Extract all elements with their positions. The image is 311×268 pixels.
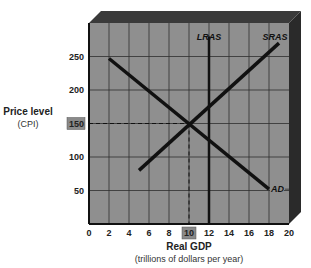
y-tick-label: 100 — [69, 152, 84, 162]
x-tick-label: 10 — [184, 228, 194, 238]
x-tick-label: 20 — [284, 228, 294, 238]
y-axis-subtitle: (CPI) — [18, 119, 39, 129]
y-tick-label: 50 — [74, 186, 84, 196]
aggregate-supply-demand-chart: LRASSRASAD501001502002500246810121416182… — [0, 0, 311, 268]
x-tick-label: 16 — [244, 228, 254, 238]
x-tick-label: 14 — [224, 228, 234, 238]
label-ad: AD — [270, 184, 284, 194]
box-top-face — [89, 11, 301, 23]
y-tick-label: 150 — [69, 119, 84, 129]
x-tick-label: 6 — [146, 228, 151, 238]
x-tick-label: 2 — [106, 228, 111, 238]
x-tick-label: 18 — [264, 228, 274, 238]
x-axis-title: Real GDP — [166, 241, 212, 252]
x-axis-subtitle: (trillions of dollars per year) — [135, 254, 244, 264]
y-axis-title: Price level — [3, 106, 53, 117]
box-right-face — [289, 11, 301, 224]
x-tick-label: 0 — [86, 228, 91, 238]
x-tick-label: 12 — [204, 228, 214, 238]
y-tick-label: 200 — [69, 85, 84, 95]
label-sras: SRAS — [262, 32, 287, 42]
y-tick-label: 250 — [69, 52, 84, 62]
label-lras: LRAS — [197, 32, 222, 42]
x-tick-label: 4 — [126, 228, 131, 238]
x-tick-label: 8 — [166, 228, 171, 238]
